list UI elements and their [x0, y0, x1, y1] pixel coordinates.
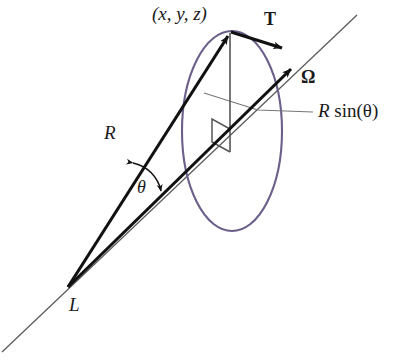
- radius-label: R: [104, 123, 116, 142]
- latitude-circle: [182, 31, 282, 231]
- figure-container: (x, y, z) T Ω R θ R sin(θ) L: [0, 0, 399, 360]
- point-coordinates-label: (x, y, z): [152, 4, 207, 23]
- omega-vector-label: Ω: [301, 68, 315, 86]
- omega-vector: [68, 69, 291, 287]
- radius-vector: [68, 36, 228, 287]
- tangential-vector-label: T: [264, 10, 276, 28]
- sine-argument: (θ): [357, 100, 379, 121]
- rotation-axis-line: [2, 15, 357, 352]
- pivot-label: L: [69, 295, 80, 314]
- theta-angle-label: θ: [137, 178, 146, 196]
- sine-function-name: sin: [334, 100, 356, 121]
- perpendicular-radius-label: R sin(θ): [318, 101, 378, 120]
- perpendicular-radius-symbol: R: [318, 100, 330, 121]
- tangential-velocity-vector: [231, 32, 282, 48]
- diagram-canvas: [0, 0, 399, 360]
